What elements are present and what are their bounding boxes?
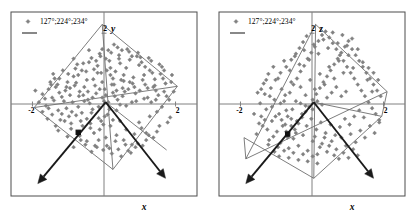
chart-svg-left: -222yx 127°;224°;234° (0, 0, 207, 222)
y-tick-label: 2 (311, 24, 315, 33)
chart-panel-left: -222yx 127°;224°;234° (0, 0, 207, 222)
arrow-waypoint-marker (76, 130, 80, 134)
x-tick-label: 2 (384, 106, 388, 115)
x-axis-label: x (141, 202, 147, 212)
x-tick-label: -2 (28, 106, 34, 115)
y-axis-label: y (110, 24, 116, 34)
legend-label: 127°;224°;234° (248, 17, 296, 26)
x-tick-label: -2 (236, 106, 242, 115)
chart-svg-right: -222zx 127°;224°;234° (208, 0, 415, 222)
chart-panel-right: -222zx 127°;224°;234° (208, 0, 415, 222)
figure-root: -222yx 127°;224°;234° -222zx 127°;224°;2… (0, 0, 415, 222)
y-tick-label: 2 (103, 24, 107, 33)
x-axis-label: x (349, 202, 355, 212)
legend-label: 127°;224°;234° (40, 17, 88, 26)
x-tick-label: 2 (176, 106, 180, 115)
y-axis-label: z (318, 24, 323, 34)
arrow-waypoint-marker (285, 132, 289, 136)
